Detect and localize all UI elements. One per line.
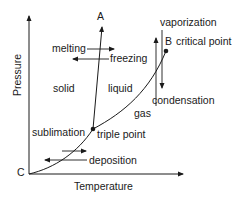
point-b-label: B [165,35,172,47]
critical-point-dot [164,49,169,54]
critical-point-label: critical point [176,35,231,47]
melting-label: melting [52,42,86,54]
condensation-label: condensation [152,94,214,106]
liquid-region-label: liquid [108,82,133,94]
origin-c-label: C [17,166,25,178]
gas-region-label: gas [134,107,151,119]
phase-diagram: A vaporization B critical point melting … [0,0,244,197]
point-a-label: A [97,10,104,22]
y-axis-label: Pressure [11,54,23,96]
melting-line [93,27,102,129]
triple-point-label: triple point [97,128,145,140]
sublimation-label: sublimation [32,126,85,138]
solid-region-label: solid [53,82,75,94]
x-axis-label: Temperature [74,180,133,192]
triple-point-dot [91,127,96,132]
freezing-label: freezing [110,52,147,64]
deposition-label: deposition [89,154,137,166]
vaporization-label: vaporization [160,16,217,28]
